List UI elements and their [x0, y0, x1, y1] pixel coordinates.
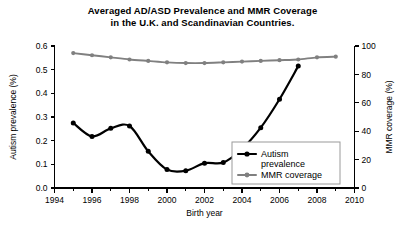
- data-point-autism-prevalence: [202, 161, 207, 166]
- chart-legend: AutismprevalenceMMR coverage: [232, 142, 340, 184]
- y-axis-left-tick-label: 0.0: [36, 183, 48, 193]
- x-axis-title: Birth year: [186, 208, 223, 218]
- data-point-mmr-coverage: [277, 58, 281, 62]
- y-axis-left-tick-label: 0.6: [36, 41, 48, 51]
- data-point-autism-prevalence: [258, 125, 263, 130]
- data-point-autism-prevalence: [146, 149, 151, 154]
- legend-marker-mmr-coverage: [245, 173, 250, 178]
- x-axis-tick-label: 2006: [270, 195, 289, 205]
- y-axis-right-tick-label: 100: [362, 41, 376, 51]
- y-axis-left-tick-label: 0.3: [36, 112, 48, 122]
- data-point-mmr-coverage: [90, 53, 94, 57]
- line-chart-plot: 0.00.10.20.30.40.50.60204060801001994199…: [0, 0, 405, 236]
- data-point-autism-prevalence: [165, 167, 170, 172]
- legend-label-autism-prevalence-line-2: prevalence: [261, 159, 305, 169]
- y-axis-left-title: Autism prevalence (%): [8, 74, 18, 160]
- y-axis-right-tick-label: 0: [362, 183, 367, 193]
- x-axis-tick-label: 2008: [308, 195, 327, 205]
- data-point-mmr-coverage: [296, 57, 300, 61]
- data-point-autism-prevalence: [127, 123, 132, 128]
- data-point-mmr-coverage: [202, 61, 206, 65]
- data-point-autism-prevalence: [183, 168, 188, 173]
- data-point-autism-prevalence: [277, 97, 282, 102]
- data-point-autism-prevalence: [296, 64, 301, 69]
- data-point-autism-prevalence: [71, 120, 76, 125]
- y-axis-left-tick-label: 0.1: [36, 159, 48, 169]
- y-axis-right-tick-label: 80: [362, 70, 372, 80]
- data-point-autism-prevalence: [221, 160, 226, 165]
- chart-title-line-2: in the U.K. and Scandinavian Countries.: [0, 17, 405, 29]
- chart-figure: Averaged AD/ASD Prevalence and MMR Cover…: [0, 0, 405, 236]
- y-axis-left-tick-label: 0.4: [36, 88, 48, 98]
- x-axis-tick-label: 1996: [83, 195, 102, 205]
- x-axis-tick-label: 2002: [195, 195, 214, 205]
- data-point-mmr-coverage: [184, 61, 188, 65]
- legend-label-mmr-coverage: MMR coverage: [261, 170, 322, 180]
- y-axis-right-title: MMR coverage (%): [384, 80, 394, 153]
- data-point-mmr-coverage: [221, 60, 225, 64]
- x-axis-tick-label: 1998: [120, 195, 139, 205]
- y-axis-right-tick-label: 40: [362, 126, 372, 136]
- y-axis-left-tick-label: 0.5: [36, 65, 48, 75]
- data-point-mmr-coverage: [259, 59, 263, 63]
- data-point-mmr-coverage: [146, 59, 150, 63]
- data-point-mmr-coverage: [315, 55, 319, 59]
- data-point-mmr-coverage: [127, 57, 131, 61]
- y-axis-right-tick-label: 20: [362, 155, 372, 165]
- data-point-mmr-coverage: [334, 55, 338, 59]
- data-point-mmr-coverage: [165, 60, 169, 64]
- x-axis-tick-label: 2004: [233, 195, 252, 205]
- x-axis-tick-label: 2010: [345, 195, 364, 205]
- data-point-mmr-coverage: [240, 60, 244, 64]
- data-point-mmr-coverage: [109, 55, 113, 59]
- data-point-autism-prevalence: [108, 126, 113, 131]
- chart-title: Averaged AD/ASD Prevalence and MMR Cover…: [0, 5, 405, 28]
- y-axis-left-tick-label: 0.2: [36, 136, 48, 146]
- y-axis-right-tick-label: 60: [362, 98, 372, 108]
- legend-marker-autism-prevalence: [244, 151, 249, 156]
- data-point-autism-prevalence: [90, 134, 95, 139]
- x-axis-tick-label: 1994: [45, 195, 64, 205]
- x-axis-tick-label: 2000: [158, 195, 177, 205]
- chart-title-line-1: Averaged AD/ASD Prevalence and MMR Cover…: [0, 5, 405, 17]
- data-point-mmr-coverage: [71, 51, 75, 55]
